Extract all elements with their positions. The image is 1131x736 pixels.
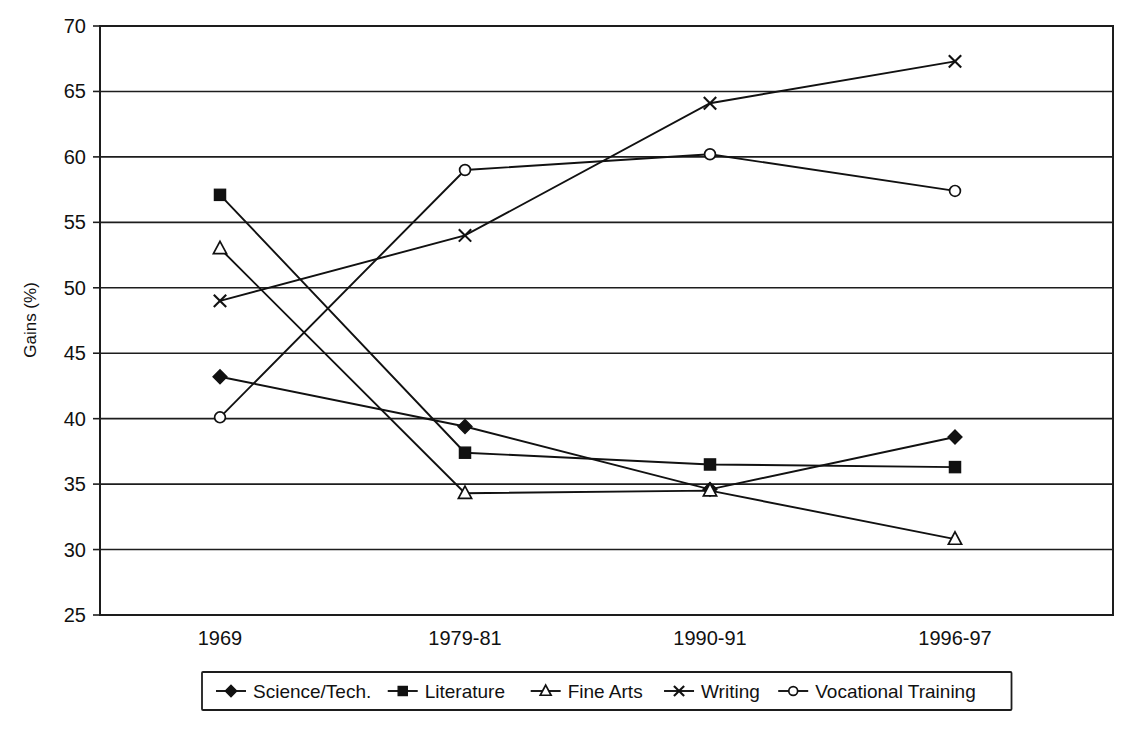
y-axis-title: Gains (%) — [21, 282, 40, 358]
series-path — [220, 61, 955, 301]
y-axis-tick-labels: 70656055504540353025 — [64, 15, 100, 626]
y-tick-label: 25 — [64, 604, 86, 626]
marker-cross — [459, 229, 471, 241]
series-path — [220, 154, 955, 417]
y-axis-label: Gains (%) — [21, 282, 40, 358]
marker-filled-diamond — [458, 420, 472, 434]
series-literature — [214, 189, 960, 472]
series-path — [220, 249, 955, 540]
series-vocational-training — [215, 149, 961, 423]
y-tick-label: 50 — [64, 277, 86, 299]
y-tick-label: 70 — [64, 15, 86, 37]
series-path — [220, 195, 955, 467]
plot-border — [100, 26, 1113, 615]
marker-filled-square — [459, 447, 470, 458]
legend-label: Vocational Training — [815, 681, 976, 702]
marker-filled-diamond — [948, 430, 962, 444]
marker-filled-square — [704, 459, 715, 470]
x-axis-tick-labels: 19691979-811990-911996-97 — [198, 627, 992, 649]
marker-open-circle — [705, 149, 716, 160]
y-tick-label: 60 — [64, 146, 86, 168]
line-chart: 70656055504540353025 19691979-811990-911… — [0, 0, 1131, 736]
x-tick-label: 1979-81 — [428, 627, 501, 649]
series-layer — [213, 55, 962, 544]
marker-filled-square — [949, 461, 960, 472]
plot-frame — [100, 26, 1113, 615]
x-tick-label: 1969 — [198, 627, 243, 649]
marker-open-circle — [215, 412, 226, 423]
series-writing — [214, 55, 961, 307]
marker-cross — [214, 295, 226, 307]
legend-label: Fine Arts — [568, 681, 643, 702]
x-tick-label: 1996-97 — [918, 627, 991, 649]
legend-label: Literature — [425, 681, 505, 702]
marker-filled-square — [398, 686, 407, 695]
y-tick-label: 40 — [64, 408, 86, 430]
y-tick-label: 65 — [64, 80, 86, 102]
chart-legend[interactable]: Science/Tech.LiteratureFine ArtsWritingV… — [202, 672, 1012, 710]
series-fine-arts — [213, 241, 961, 544]
marker-filled-diamond — [213, 370, 227, 384]
y-tick-label: 55 — [64, 211, 86, 233]
series-path — [220, 377, 955, 490]
x-tick-label: 1990-91 — [673, 627, 746, 649]
marker-open-circle — [460, 165, 471, 176]
y-tick-label: 35 — [64, 473, 86, 495]
marker-filled-square — [214, 189, 225, 200]
marker-open-circle — [789, 687, 798, 696]
y-tick-label: 30 — [64, 539, 86, 561]
legend-label: Science/Tech. — [253, 681, 371, 702]
y-tick-label: 45 — [64, 342, 86, 364]
series-science-tech — [213, 370, 962, 497]
marker-open-triangle — [213, 241, 226, 253]
marker-open-circle — [950, 186, 961, 197]
legend-label: Writing — [701, 681, 760, 702]
chart-canvas: 70656055504540353025 19691979-811990-911… — [0, 0, 1131, 736]
